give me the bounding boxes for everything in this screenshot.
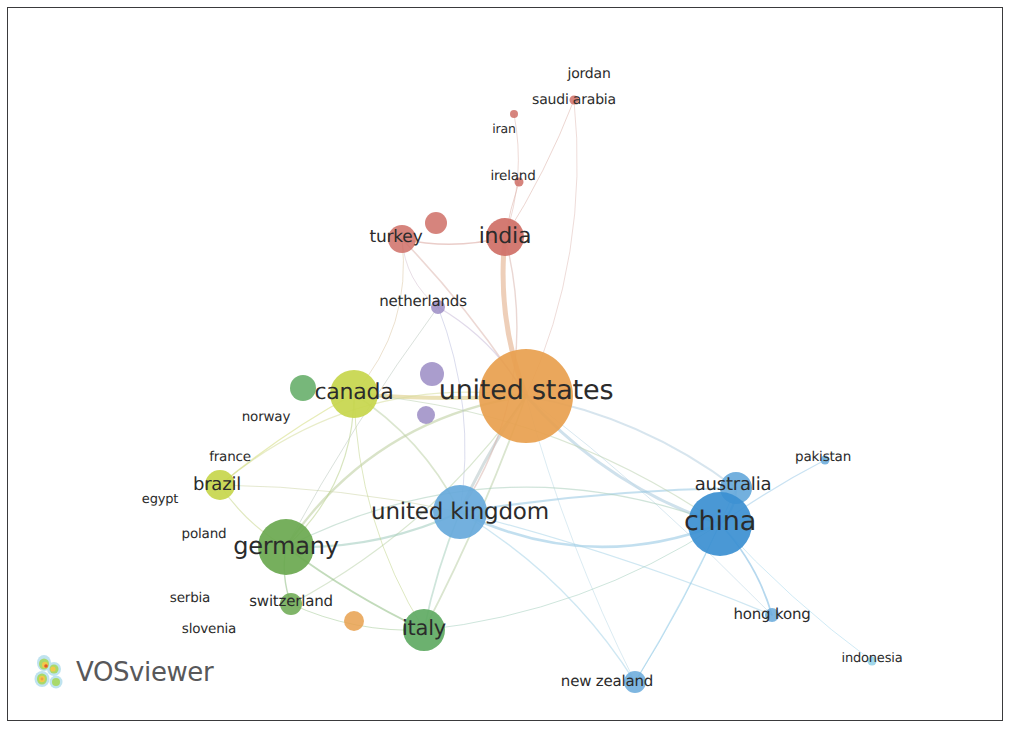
network-edge — [220, 394, 354, 485]
vosviewer-density-mark — [33, 653, 67, 691]
network-node[interactable] — [290, 375, 316, 401]
nodes-layer[interactable] — [205, 96, 877, 694]
network-node[interactable] — [344, 611, 364, 631]
network-node-switzerland[interactable] — [280, 593, 302, 615]
network-node-new-zealand[interactable] — [624, 671, 646, 693]
network-node-ireland[interactable] — [515, 178, 524, 187]
network-node-saudi-arabia[interactable] — [570, 96, 579, 105]
vosviewer-wordmark: VOSviewer — [76, 657, 213, 687]
network-graph-svg[interactable] — [8, 8, 1004, 722]
network-node-brazil[interactable] — [205, 470, 235, 500]
network-node-united-kingdom[interactable] — [433, 485, 487, 539]
network-edge — [291, 396, 526, 604]
network-edge — [220, 485, 460, 512]
network-canvas[interactable]: jordansaudi arabiairanirelandturkeyindia… — [8, 8, 1004, 722]
vosviewer-screenshot: jordansaudi arabiairanirelandturkeyindia… — [0, 0, 1013, 731]
network-node-turkey[interactable] — [388, 225, 416, 253]
network-node-china[interactable] — [688, 492, 752, 556]
network-node-indonesia[interactable] — [868, 657, 877, 666]
network-node[interactable] — [417, 406, 435, 424]
network-node[interactable] — [425, 212, 447, 234]
network-node-germany[interactable] — [258, 519, 314, 575]
network-node-canada[interactable] — [330, 370, 378, 418]
network-edge — [354, 239, 403, 394]
network-node-pakistan[interactable] — [821, 456, 830, 465]
visualization-frame: jordansaudi arabiairanirelandturkeyindia… — [7, 7, 1003, 721]
network-node-india[interactable] — [486, 218, 524, 256]
network-edge — [354, 394, 424, 630]
network-edge — [460, 512, 635, 682]
network-node[interactable] — [420, 362, 444, 386]
network-edge — [460, 512, 720, 547]
network-node-iran[interactable] — [510, 110, 518, 118]
network-node-netherlands[interactable] — [431, 300, 445, 314]
network-node-italy[interactable] — [403, 609, 445, 651]
network-node-united-states[interactable] — [479, 349, 573, 443]
vosviewer-logo: VOSviewer — [33, 653, 213, 691]
network-node-hong-kong[interactable] — [765, 608, 779, 622]
